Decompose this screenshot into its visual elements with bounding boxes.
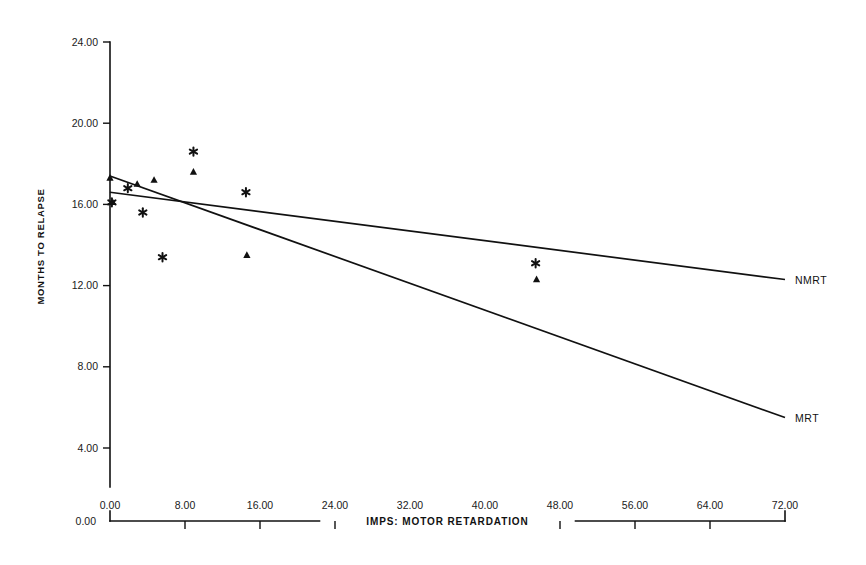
y-tick-label: 24.00	[72, 36, 98, 48]
marker-triangle	[190, 168, 197, 175]
marker-asterisk	[139, 208, 146, 216]
marker-asterisk	[159, 253, 166, 261]
x-tick-label: 48.00	[547, 499, 573, 511]
x-tick-label: 0.00	[100, 499, 121, 511]
x-tick-label: 40.00	[472, 499, 498, 511]
y-tick-label: 16.00	[72, 198, 98, 210]
regression-label-mrt: MRT	[795, 412, 819, 424]
regression-lines	[110, 176, 785, 418]
x-axis-origin-label: 0.00	[76, 515, 97, 527]
marker-asterisk	[190, 147, 197, 155]
y-tick-label: 12.00	[72, 279, 98, 291]
marker-asterisk	[124, 184, 131, 192]
x-tick-label: 8.00	[175, 499, 196, 511]
marker-triangle	[533, 276, 540, 283]
scatter-plot-figure: 24.0020.0016.0012.008.004.00 0.008.0016.…	[0, 0, 866, 565]
x-tick-label: 64.00	[697, 499, 723, 511]
y-axis-ticks	[103, 42, 110, 448]
marker-triangle	[243, 251, 250, 258]
regression-line-nmrt	[110, 192, 785, 279]
y-axis-title: MONTHS TO RELAPSE	[35, 188, 46, 304]
data-point-markers	[106, 147, 540, 282]
x-axis-title: IMPS: MOTOR RETARDATION	[366, 516, 528, 527]
x-tick-label: 32.00	[397, 499, 423, 511]
y-tick-label: 8.00	[78, 360, 99, 372]
y-axis: 24.0020.0016.0012.008.004.00	[72, 36, 110, 488]
x-axis-tick-labels: 0.008.0016.0024.0032.0040.0048.0056.0064…	[100, 499, 799, 511]
x-tick-label: 16.00	[247, 499, 273, 511]
regression-line-mrt	[110, 176, 785, 418]
y-tick-label: 20.00	[72, 117, 98, 129]
chart-canvas: 24.0020.0016.0012.008.004.00 0.008.0016.…	[0, 0, 866, 565]
y-axis-tick-labels: 24.0020.0016.0012.008.004.00	[72, 36, 98, 454]
marker-triangle	[150, 176, 157, 183]
regression-label-nmrt: NMRT	[795, 274, 827, 286]
marker-asterisk	[242, 188, 249, 196]
x-tick-label: 24.00	[322, 499, 348, 511]
x-tick-label: 56.00	[622, 499, 648, 511]
regression-line-labels: MRTNMRT	[795, 274, 827, 424]
marker-asterisk	[532, 259, 539, 267]
x-tick-label: 72.00	[772, 499, 798, 511]
marker-triangle	[134, 180, 141, 187]
y-tick-label: 4.00	[78, 442, 99, 454]
